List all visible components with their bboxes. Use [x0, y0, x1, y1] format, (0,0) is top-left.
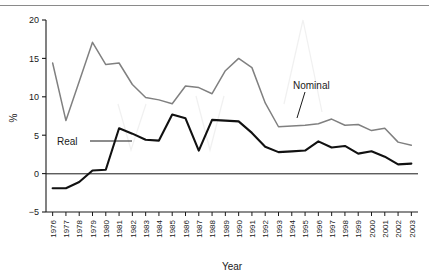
x-tick-label: 2002	[394, 219, 403, 237]
y-tick-label: 15	[29, 54, 39, 64]
x-tick-label: 1986	[182, 219, 191, 237]
x-tick-label: 1985	[168, 219, 177, 237]
x-tick-label: 1979	[89, 219, 98, 237]
series-line-nominal	[53, 42, 412, 145]
y-axis-title-group: %	[8, 113, 19, 122]
x-tick-label: 1982	[129, 219, 138, 237]
x-tick-group	[53, 212, 412, 216]
x-tick-label: 1990	[235, 219, 244, 237]
x-tick-label: 2003	[408, 219, 417, 237]
x-tick-label: 1984	[155, 219, 164, 237]
y-tick-label-group: −505101520	[29, 15, 39, 217]
x-tick-label: 1977	[62, 219, 71, 237]
x-tick-label-group: 1976197719781979198019811982198319841985…	[49, 219, 417, 237]
y-tick-label: 0	[34, 169, 39, 179]
x-tick-label: 1999	[354, 219, 363, 237]
y-tick-label: 20	[29, 15, 39, 25]
x-tick-label: 1995	[301, 219, 310, 237]
x-tick-label: 1994	[288, 219, 297, 237]
x-tick-label: 1978	[75, 219, 84, 237]
x-tick-label: 1980	[102, 219, 111, 237]
figure: −505101520 19761977197819791980198119821…	[0, 0, 429, 275]
x-tick-label: 1993	[275, 219, 284, 237]
x-tick-label: 2000	[368, 219, 377, 237]
x-tick-label: 1981	[115, 219, 124, 237]
x-axis-title: Year	[222, 261, 243, 272]
series-line-real	[53, 114, 412, 188]
scan-bleed-artifact	[118, 20, 322, 150]
line-chart-canvas: −505101520 19761977197819791980198119821…	[0, 0, 429, 275]
x-tick-label: 1983	[142, 219, 151, 237]
x-tick-label: 1998	[341, 219, 350, 237]
annotation-nominal: Nominal	[293, 80, 330, 118]
x-tick-label: 1991	[248, 219, 257, 237]
x-tick-label: 1996	[315, 219, 324, 237]
x-tick-label: 1992	[261, 219, 270, 237]
x-tick-label: 1997	[328, 219, 337, 237]
axis-frame	[46, 20, 418, 212]
annotation-real: Real	[57, 136, 132, 147]
x-tick-label: 1976	[49, 219, 58, 237]
y-axis-title: %	[8, 113, 19, 122]
y-tick-label: 10	[29, 92, 39, 102]
series-label-nominal: Nominal	[293, 80, 330, 91]
x-tick-label: 1988	[208, 219, 217, 237]
leader-line-nominal	[297, 92, 305, 118]
y-tick-group	[42, 20, 46, 212]
x-tick-label: 1989	[222, 219, 231, 237]
series-label-real: Real	[57, 136, 78, 147]
y-tick-label: −5	[29, 207, 39, 217]
x-axis-title-group: Year	[222, 261, 243, 272]
x-tick-label: 1987	[195, 219, 204, 237]
series-layer	[53, 42, 412, 188]
y-tick-label: 5	[34, 131, 39, 141]
x-tick-label: 2001	[381, 219, 390, 237]
